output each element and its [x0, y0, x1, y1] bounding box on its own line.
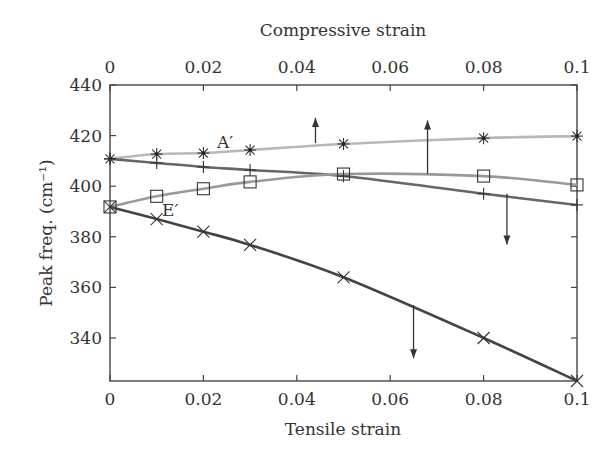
asterisk-center: [155, 152, 159, 156]
y-tick-label: 420: [70, 126, 102, 146]
data-point-x: [338, 271, 350, 283]
x2-tick-label: 0.1: [563, 57, 590, 77]
series-group: [104, 130, 583, 387]
annotation-a-prime: A′: [216, 132, 233, 152]
y-axis-title: Peak freq. (cm⁻¹): [36, 159, 56, 306]
data-point-plus: [244, 164, 256, 176]
data-point-asterisk: [244, 144, 256, 156]
arrows-group: [312, 118, 510, 358]
data-point-plus: [478, 188, 490, 200]
asterisk-center: [482, 136, 486, 140]
x-tick-label: 0.1: [563, 389, 590, 409]
arrow-down-icon: [410, 305, 417, 358]
y-tick-label: 380: [70, 227, 102, 247]
arrow-head: [312, 118, 319, 127]
y-tick-label: 440: [70, 75, 102, 95]
x2-tick-label: 0.02: [184, 57, 222, 77]
asterisk-center: [248, 148, 252, 152]
arrow-down-icon: [503, 194, 510, 245]
data-point-asterisk: [197, 147, 209, 159]
x2-tick-label: 0: [105, 57, 116, 77]
annotation-e-prime: E′: [162, 200, 178, 220]
y-tick-label: 340: [70, 328, 102, 348]
chart: 000.020.020.040.040.060.060.080.080.10.1…: [0, 0, 616, 461]
x-tick-label: 0.02: [184, 389, 222, 409]
arrow-head: [503, 235, 510, 244]
arrow-head: [410, 349, 417, 358]
x-tick-label: 0.08: [465, 389, 503, 409]
x2-tick-label: 0.06: [371, 57, 409, 77]
arrow-head: [424, 120, 431, 129]
data-point-asterisk: [478, 132, 490, 144]
data-point-x: [478, 332, 490, 344]
data-point-asterisk: [338, 138, 350, 150]
x-axis-title: Tensile strain: [285, 419, 401, 439]
x-tick-label: 0: [105, 389, 116, 409]
x-tick-label: 0.06: [371, 389, 409, 409]
asterisk-center: [575, 134, 579, 138]
asterisk-center: [202, 151, 206, 155]
y-tick-label: 400: [70, 176, 102, 196]
y-tick-label: 360: [70, 277, 102, 297]
asterisk-center: [342, 142, 346, 146]
arrow-up-icon: [312, 118, 319, 143]
axes: 000.020.020.040.040.060.060.080.080.10.1…: [70, 57, 591, 409]
x2-tick-label: 0.08: [465, 57, 503, 77]
x2-axis-title: Compressive strain: [260, 20, 427, 40]
data-point-asterisk: [571, 130, 583, 142]
arrow-up-icon: [424, 120, 431, 173]
data-point-plus: [571, 199, 583, 211]
data-point-plus: [197, 161, 209, 173]
x2-tick-label: 0.04: [278, 57, 316, 77]
x-tick-label: 0.04: [278, 389, 316, 409]
